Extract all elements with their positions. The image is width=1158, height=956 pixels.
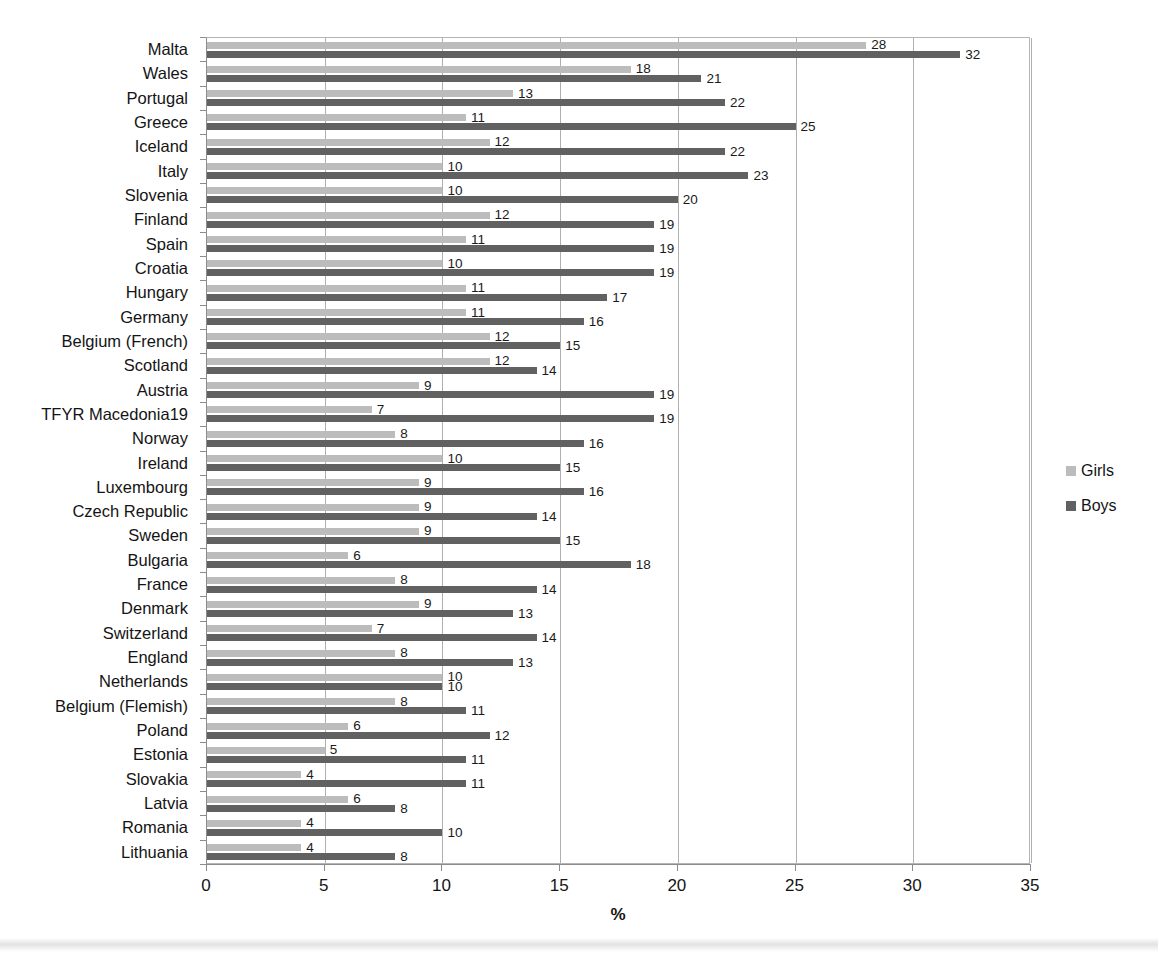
value-label-girls: 9: [419, 379, 432, 393]
value-label-boys: 11: [466, 777, 485, 791]
bar-girls: [207, 66, 631, 73]
legend-swatch-icon: [1066, 466, 1076, 476]
bar-boys: [207, 318, 584, 325]
bar-boys: [207, 488, 584, 495]
value-label-girls: 10: [442, 184, 462, 198]
x-axis-tick-label: 5: [319, 876, 328, 896]
bar-girls: [207, 212, 490, 219]
value-label-boys: 13: [513, 607, 533, 621]
bar-row: 914: [207, 500, 1029, 524]
bar-boys: [207, 610, 513, 617]
scan-artifact-strip: [0, 938, 1158, 952]
value-label-girls: 8: [395, 573, 408, 587]
bar-row: 816: [207, 427, 1029, 451]
legend-swatch-icon: [1066, 501, 1076, 511]
bar-row: 1222: [207, 135, 1029, 159]
bar-girls: [207, 260, 442, 267]
bar-girls: [207, 674, 442, 681]
bar-boys: [207, 634, 537, 641]
bar-row: 1020: [207, 184, 1029, 208]
bar-girls: [207, 236, 466, 243]
bar-boys: [207, 172, 748, 179]
value-label-girls: 4: [301, 768, 314, 782]
y-axis-label: Lithuania: [121, 840, 188, 864]
y-axis-category-labels: MaltaWalesPortugalGreeceIcelandItalySlov…: [0, 37, 198, 864]
value-label-girls: 12: [490, 330, 510, 344]
x-axis-tick-label: 25: [785, 876, 804, 896]
bar-row: 48: [207, 841, 1029, 865]
bar-row: 813: [207, 646, 1029, 670]
value-label-boys: 22: [725, 96, 745, 110]
y-axis-label: Spain: [146, 232, 188, 256]
y-axis-label: England: [127, 645, 188, 669]
value-label-girls: 12: [490, 208, 510, 222]
y-axis-label: Belgium (French): [61, 329, 188, 353]
bar-girls: [207, 552, 348, 559]
bar-row: 1215: [207, 330, 1029, 354]
value-label-boys: 10: [442, 680, 462, 694]
bar-row: 916: [207, 476, 1029, 500]
value-label-girls: 4: [301, 816, 314, 830]
bar-girls: [207, 577, 395, 584]
bar-row: 1219: [207, 208, 1029, 232]
value-label-boys: 19: [654, 218, 674, 232]
bar-girls: [207, 114, 466, 121]
bar-boys: [207, 99, 725, 106]
y-axis-label: Croatia: [135, 256, 188, 280]
bar-row: 915: [207, 524, 1029, 548]
y-axis-label: Norway: [132, 426, 188, 450]
bar-row: 68: [207, 792, 1029, 816]
x-axis-tick: [441, 864, 442, 871]
bar-row: 612: [207, 719, 1029, 743]
bar-girls: [207, 139, 490, 146]
y-axis-label: Bulgaria: [127, 548, 188, 572]
bar-boys: [207, 440, 584, 447]
value-label-girls: 12: [490, 135, 510, 149]
value-label-girls: 7: [372, 622, 385, 636]
x-axis-tick: [324, 864, 325, 871]
value-label-boys: 19: [654, 388, 674, 402]
bar-girls: [207, 625, 372, 632]
bar-boys: [207, 586, 537, 593]
y-axis-label: Greece: [134, 110, 188, 134]
value-label-boys: 21: [701, 72, 721, 86]
value-label-boys: 25: [796, 120, 816, 134]
bar-girls: [207, 796, 348, 803]
y-axis-label: Italy: [158, 159, 188, 183]
bar-girls: [207, 528, 419, 535]
value-label-girls: 11: [466, 281, 485, 295]
value-label-girls: 6: [348, 549, 361, 563]
x-axis-tick-label: 15: [550, 876, 569, 896]
x-axis-tick: [1030, 864, 1031, 871]
value-label-girls: 12: [490, 354, 510, 368]
value-label-girls: 8: [395, 427, 408, 441]
legend-item[interactable]: Boys: [1066, 497, 1117, 515]
bar-girls: [207, 844, 301, 851]
y-axis-label: Slovenia: [125, 183, 188, 207]
value-label-boys: 15: [560, 339, 580, 353]
value-label-girls: 5: [325, 743, 338, 757]
value-label-girls: 8: [395, 646, 408, 660]
bar-girls: [207, 601, 419, 608]
value-label-boys: 8: [395, 850, 408, 864]
bar-girls: [207, 406, 372, 413]
value-label-boys: 19: [654, 412, 674, 426]
bar-boys: [207, 683, 442, 690]
bar-boys: [207, 415, 654, 422]
bar-boys: [207, 51, 960, 58]
value-label-girls: 9: [419, 597, 432, 611]
bar-row: 919: [207, 379, 1029, 403]
value-label-girls: 28: [866, 38, 886, 52]
bar-row: 1015: [207, 452, 1029, 476]
value-label-boys: 19: [654, 242, 674, 256]
legend-item[interactable]: Girls: [1066, 462, 1117, 480]
bar-boys: [207, 245, 654, 252]
value-label-boys: 17: [607, 291, 627, 305]
value-label-boys: 15: [560, 461, 580, 475]
bar-girls: [207, 285, 466, 292]
y-axis-label: Iceland: [135, 134, 188, 158]
y-axis-label: Czech Republic: [72, 499, 188, 523]
value-label-boys: 23: [748, 169, 768, 183]
bar-boys: [207, 659, 513, 666]
value-label-boys: 10: [442, 826, 462, 840]
